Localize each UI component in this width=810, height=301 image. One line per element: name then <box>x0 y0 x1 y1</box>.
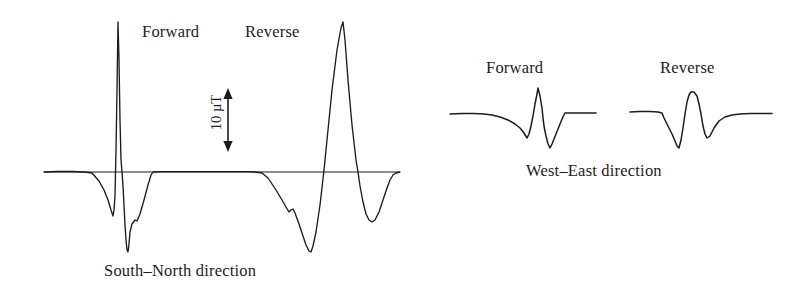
double-headed-arrow-icon <box>220 88 236 152</box>
sn-panel-caption: South–North direction <box>104 261 256 281</box>
sn-label-reverse: Reverse <box>245 22 300 42</box>
panel-south-north: Forward Reverse 10 µT South–North direct… <box>0 0 420 301</box>
figure-root: Forward Reverse 10 µT South–North direct… <box>0 0 810 301</box>
west-east-waveform-reverse <box>630 92 772 148</box>
we-label-forward: Forward <box>486 58 543 78</box>
west-east-trace-chart <box>420 0 810 301</box>
panel-west-east: Forward Reverse West–East direction <box>420 0 810 301</box>
we-panel-caption: West–East direction <box>526 161 662 181</box>
west-east-waveform-forward <box>450 88 596 148</box>
sn-label-forward: Forward <box>142 22 199 42</box>
scale-bar: 10 µT <box>196 88 242 152</box>
we-label-reverse: Reverse <box>660 58 715 78</box>
